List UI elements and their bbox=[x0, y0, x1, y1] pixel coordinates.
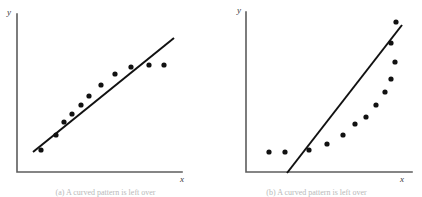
data-point bbox=[161, 62, 166, 67]
data-point bbox=[128, 64, 133, 69]
data-point bbox=[392, 59, 397, 64]
data-point bbox=[78, 102, 83, 107]
data-point bbox=[38, 147, 43, 152]
data-point bbox=[146, 62, 151, 67]
y-axis-label: y bbox=[237, 6, 241, 15]
data-point bbox=[393, 19, 398, 24]
scatter-plot-a-canvas bbox=[0, 0, 211, 197]
data-point bbox=[388, 76, 393, 81]
least-squares-line-b bbox=[287, 25, 402, 173]
scatter-plot-b-canvas bbox=[211, 0, 422, 197]
data-point bbox=[388, 40, 393, 45]
y-axis-label: y bbox=[7, 8, 11, 17]
data-point bbox=[382, 89, 387, 94]
data-point bbox=[352, 121, 357, 126]
data-point bbox=[61, 119, 66, 124]
data-point bbox=[98, 82, 103, 87]
x-axis-label: x bbox=[180, 175, 184, 184]
data-point bbox=[306, 147, 311, 152]
x-axis-label: x bbox=[400, 175, 404, 184]
data-point bbox=[112, 71, 117, 76]
data-point bbox=[266, 149, 271, 154]
data-point bbox=[282, 149, 287, 154]
scatter-plot-panel-a: y x (a) A curved pattern is left over bbox=[0, 0, 211, 197]
data-point bbox=[86, 93, 91, 98]
data-point bbox=[340, 132, 345, 137]
data-point bbox=[53, 132, 58, 137]
panel-caption-b: (b) A curved pattern is left over bbox=[211, 188, 422, 197]
data-point bbox=[69, 111, 74, 116]
data-point bbox=[324, 141, 329, 146]
panel-caption-a: (a) A curved pattern is left over bbox=[0, 188, 211, 197]
scatter-plot-panel-b: y x (b) A curved pattern is left over bbox=[211, 0, 422, 197]
data-point bbox=[363, 114, 368, 119]
data-point bbox=[373, 102, 378, 107]
figure-root: y x (a) A curved pattern is left over y bbox=[0, 0, 422, 197]
